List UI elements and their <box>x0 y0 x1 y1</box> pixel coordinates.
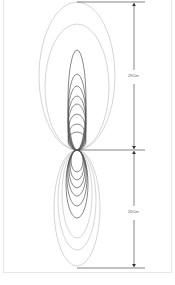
dimension-label-bottom: 20Cm <box>127 209 140 214</box>
arrow-down-icon <box>132 264 136 267</box>
arrow-up-icon <box>132 3 136 6</box>
lower-lobe <box>71 150 83 172</box>
lower-lobe <box>54 150 100 266</box>
upper-lobe <box>68 74 86 150</box>
upper-lobe <box>68 86 86 150</box>
arrow-down-icon <box>132 146 136 149</box>
lower-lobe <box>58 150 96 250</box>
arrow-up-icon <box>132 151 136 154</box>
dimension-label-top: 29Cm <box>127 73 140 78</box>
upper-lobe <box>68 104 86 150</box>
radiation-pattern-diagram <box>0 0 175 285</box>
upper-lobe <box>45 24 109 150</box>
